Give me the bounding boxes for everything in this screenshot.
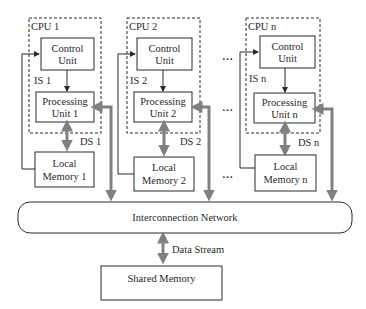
processing-unit-1-label: Processing xyxy=(42,96,88,107)
architecture-diagram: CPU 1 Control Unit IS 1 Processing Unit … xyxy=(0,0,366,309)
cpu-2-group: CPU 2 Control Unit IS 2 Processing Unit … xyxy=(118,18,209,197)
local-memory-1-label-2: Memory 1 xyxy=(42,171,86,182)
processing-unit-n-label-2: Unit n xyxy=(271,109,298,120)
ellipsis-control: … xyxy=(222,50,233,62)
processing-unit-1-label-2: Unit 1 xyxy=(52,108,79,119)
local-memory-n-label-2: Memory n xyxy=(263,174,308,185)
network-link-n-arrow xyxy=(319,109,332,197)
is-n-label: IS n xyxy=(249,73,267,84)
cpu-n-label: CPU n xyxy=(248,21,277,32)
control-unit-1-label-2: Unit xyxy=(58,55,77,66)
ds-2-label: DS 2 xyxy=(180,136,201,147)
processing-unit-2-label: Processing xyxy=(140,96,186,107)
ellipsis-memory: … xyxy=(222,168,233,180)
control-unit-2-label-2: Unit xyxy=(155,55,174,66)
ds-1-label: DS 1 xyxy=(80,136,101,147)
is-2-label: IS 2 xyxy=(130,75,147,86)
control-unit-1-label: Control xyxy=(51,43,83,54)
data-stream-label: Data Stream xyxy=(172,244,224,255)
processing-unit-n-label: Processing xyxy=(262,97,308,108)
local-memory-n-label: Local xyxy=(274,161,298,172)
network-link-1-arrow xyxy=(98,107,111,197)
ds-n-label: DS n xyxy=(298,137,320,148)
local-memory-2-label: Local xyxy=(152,162,176,173)
control-unit-2-label: Control xyxy=(148,43,180,54)
local-memory-1-label: Local xyxy=(53,158,77,169)
ellipsis-processing: … xyxy=(222,101,233,113)
cpu-n-group: CPU n Control Unit IS n Processing Unit … xyxy=(240,18,332,197)
interconnection-network-label: Interconnection Network xyxy=(132,212,238,223)
is-1-label: IS 1 xyxy=(34,75,51,86)
shared-memory-label: Shared Memory xyxy=(128,273,197,284)
control-unit-n-label: Control xyxy=(271,41,303,52)
processing-unit-2-label-2: Unit 2 xyxy=(150,108,177,119)
control-unit-n-label-2: Unit xyxy=(278,53,297,64)
cpu-1-group: CPU 1 Control Unit IS 1 Processing Unit … xyxy=(22,18,111,197)
cpu-2-label: CPU 2 xyxy=(129,21,157,32)
local-memory-2-label-2: Memory 2 xyxy=(142,175,186,186)
cpu-1-label: CPU 1 xyxy=(31,21,59,32)
